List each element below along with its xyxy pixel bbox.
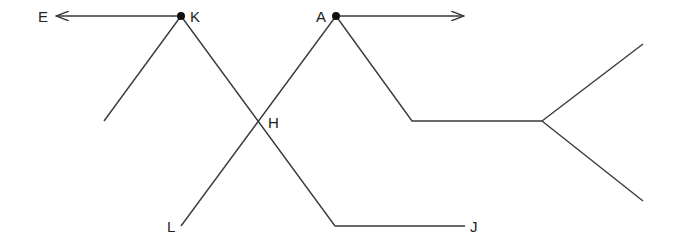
path-a-right (336, 16, 542, 121)
label-l: L (167, 218, 175, 235)
point-a (332, 12, 340, 20)
point-k (177, 12, 185, 20)
label-e: E (38, 8, 48, 25)
fork-lower (542, 121, 643, 201)
label-a: A (316, 8, 326, 25)
geometry-diagram: E K A H L J (0, 0, 681, 246)
label-j: J (470, 218, 478, 235)
fork-upper (542, 44, 643, 121)
diagram-svg: E K A H L J (0, 0, 681, 246)
label-h: H (268, 114, 279, 131)
segment-k-left (104, 16, 181, 121)
label-k: K (190, 8, 200, 25)
